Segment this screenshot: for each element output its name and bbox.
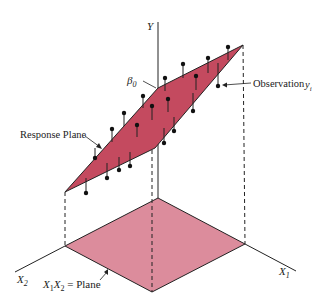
observation-point <box>166 97 170 101</box>
base-plane-label: X1X2 = Plane <box>42 278 101 293</box>
observation-point <box>216 84 220 88</box>
observation-point <box>172 129 176 133</box>
x2-axis-label: X2 <box>16 273 28 288</box>
observation-point <box>93 156 97 160</box>
observation-point <box>194 74 198 78</box>
observation-point <box>191 109 195 113</box>
beta0-leader <box>143 81 156 88</box>
response-plane-arrowhead <box>96 143 102 149</box>
observation-point <box>162 141 166 145</box>
observation-point <box>110 127 114 131</box>
base-plane-arrowhead <box>104 269 108 275</box>
x2-axis <box>15 246 65 272</box>
observation-label: Observation <box>253 78 305 89</box>
y-axis-label: Y <box>147 20 155 32</box>
observation-point <box>206 56 210 60</box>
x1-axis <box>245 244 296 271</box>
observation-leader <box>224 83 251 85</box>
observation-arrowhead <box>222 83 227 88</box>
observation-point <box>141 94 145 98</box>
observation-var-label: yi <box>304 79 312 93</box>
observation-point <box>128 164 132 168</box>
response-plane-label: Response Plane <box>20 129 87 140</box>
observation-point <box>163 76 167 80</box>
observation-point <box>84 191 88 195</box>
observation-point <box>117 168 121 172</box>
response-plane <box>65 45 243 192</box>
observation-point <box>105 176 109 180</box>
observation-point <box>150 104 154 108</box>
observation-point <box>135 123 139 127</box>
observation-point <box>122 111 126 115</box>
observation-point <box>226 45 230 49</box>
observation-point <box>181 62 185 66</box>
regression-plane-diagram: Y β0 Observation yi Response Plane X1 X2… <box>0 0 335 302</box>
beta0-label: β0 <box>126 74 136 89</box>
projection-line-right <box>243 45 245 244</box>
